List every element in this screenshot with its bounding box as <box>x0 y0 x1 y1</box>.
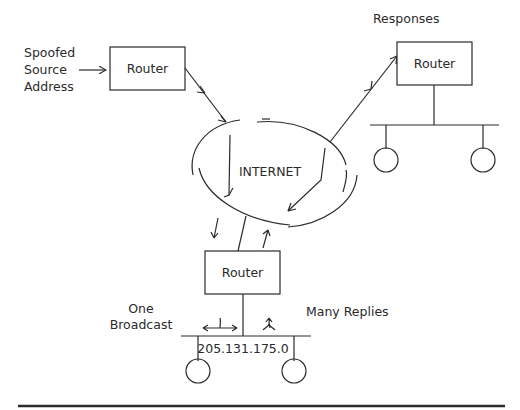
router-to-internet-line <box>185 68 226 122</box>
victim-host-1 <box>374 148 398 172</box>
response-line <box>330 56 397 142</box>
attacker-router: Router <box>110 47 185 90</box>
amplifier-router: Router <box>205 251 280 294</box>
internal-arrow-return <box>288 148 325 211</box>
svg-text:Broadcast: Broadcast <box>110 317 173 332</box>
internet-cloud: INTERNET <box>192 119 357 227</box>
svg-text:INTERNET: INTERNET <box>239 164 302 179</box>
svg-text:One: One <box>128 301 154 316</box>
amplifier-network: 205.131.175.0 <box>181 336 311 383</box>
smurf-attack-diagram: Spoofed Source Address Router INTERNET R… <box>0 0 520 410</box>
down-arrow <box>211 218 218 238</box>
victim-host-2 <box>471 148 495 172</box>
victim-router: Router <box>397 42 472 85</box>
up-arrow <box>263 230 270 248</box>
reply-arrows <box>263 318 275 330</box>
end-arrowhead <box>218 116 226 122</box>
svg-text:Spoofed: Spoofed <box>24 45 75 60</box>
svg-text:Address: Address <box>24 79 74 94</box>
broadcast-arrows <box>203 318 237 331</box>
responses-label: Responses <box>373 11 440 26</box>
many-replies-label: Many Replies <box>306 304 389 319</box>
svg-text:Source: Source <box>24 62 67 77</box>
response-mid-arrowhead <box>364 81 372 91</box>
svg-text:Router: Router <box>127 61 169 76</box>
victim-network <box>370 85 499 172</box>
svg-text:Router: Router <box>414 56 456 71</box>
amplifier-host-1 <box>186 359 210 383</box>
network-address: 205.131.175.0 <box>197 341 288 356</box>
internet-to-amp-router-link <box>238 216 246 251</box>
amplifier-host-2 <box>282 359 306 383</box>
one-broadcast-label: One Broadcast <box>110 301 173 332</box>
spoofed-source-label: Spoofed Source Address <box>24 45 75 94</box>
internal-arrow-down <box>224 135 230 197</box>
svg-text:Router: Router <box>222 265 264 280</box>
